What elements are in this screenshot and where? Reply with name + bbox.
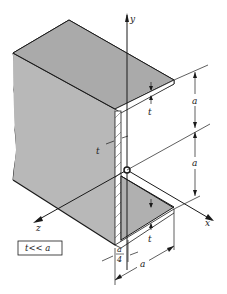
dim-upper-a-label: a (192, 96, 197, 106)
top-flange-t-label: t (148, 107, 152, 117)
dim-lower-a-label: a (192, 158, 197, 168)
z-axis-arrow (33, 216, 43, 223)
offset-denominator: 4 (116, 255, 122, 264)
condition-text: t<< a (25, 243, 50, 253)
x-axis-label: x (205, 218, 210, 228)
channel-section-diagram: y x z a a t t t a 4 a (0, 0, 227, 294)
bottom-flange-t-label: t (148, 234, 152, 244)
z-axis-label: z (35, 223, 41, 233)
web-t-label: t (96, 146, 100, 156)
offset-numerator: a (117, 245, 122, 254)
y-axis-label: y (129, 14, 136, 24)
y-axis-arrow (125, 13, 129, 22)
dim-flange-width-label: a (140, 259, 145, 269)
